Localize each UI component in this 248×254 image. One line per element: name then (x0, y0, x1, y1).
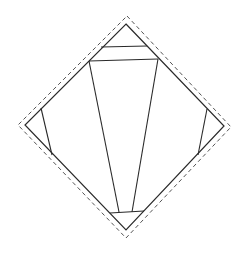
diamond-outline (25, 24, 224, 230)
bottom-band-line (110, 211, 144, 213)
center-wedge-right-line (132, 59, 158, 212)
diagram-svg (0, 0, 248, 254)
division-lines (41, 46, 207, 213)
seam-allowance-dashed-outline (18, 16, 231, 238)
top-band-lower-line (89, 59, 158, 61)
center-wedge-left-line (89, 61, 119, 212)
pattern-diagram (0, 0, 248, 254)
top-band-upper-line (101, 46, 147, 47)
